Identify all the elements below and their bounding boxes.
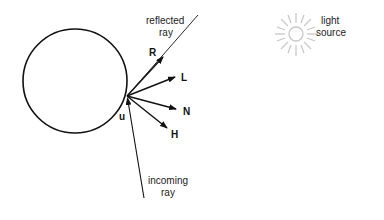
light-source-sun-icon <box>275 13 318 56</box>
vector-N-label: N <box>183 106 190 117</box>
reflected-ray-label-line2: ray <box>159 27 173 38</box>
vector-H-label: H <box>171 129 178 140</box>
incoming-ray-label-line2: ray <box>161 187 175 198</box>
ray-reflection-diagram: reflected ray R L N H u incoming ray lig… <box>0 0 384 220</box>
vector-L-label: L <box>181 72 187 83</box>
incoming-ray-label-line1: incoming <box>148 175 188 186</box>
vector-R-label: R <box>149 47 157 58</box>
vector-u-label: u <box>119 111 125 122</box>
incoming-ray-line <box>128 98 145 198</box>
light-source-label-line2: source <box>316 27 346 38</box>
sphere <box>23 29 127 133</box>
vector-L-arrow <box>127 77 175 96</box>
light-source-label-line1: light <box>321 15 340 26</box>
reflected-ray-label-line1: reflected <box>146 15 184 26</box>
vector-R-arrow <box>127 57 163 96</box>
